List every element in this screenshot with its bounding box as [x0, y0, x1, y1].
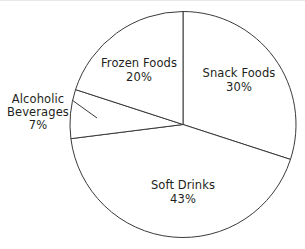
pie-label-frozen-foods-name: Frozen Foods — [97, 56, 181, 70]
pie-label-snack-foods-value: 30% — [196, 80, 282, 94]
pie-label-soft-drinks-name: Soft Drinks — [133, 178, 233, 192]
pie-label-snack-foods: Snack Foods 30% — [196, 66, 282, 94]
pie-label-frozen-foods: Frozen Foods 20% — [97, 56, 181, 84]
pie-label-snack-foods-name: Snack Foods — [196, 66, 282, 80]
pie-label-frozen-foods-value: 20% — [97, 70, 181, 84]
pie-label-soft-drinks: Soft Drinks 43% — [133, 178, 233, 206]
pie-label-alcoholic-beverages: Alcoholic Beverages 7% — [2, 93, 74, 132]
pie-label-alcoholic-beverages-value: 7% — [2, 119, 74, 132]
pie-label-soft-drinks-value: 43% — [133, 192, 233, 206]
pie-chart-figure: Snack Foods 30% Frozen Foods 20% Soft Dr… — [0, 0, 305, 249]
